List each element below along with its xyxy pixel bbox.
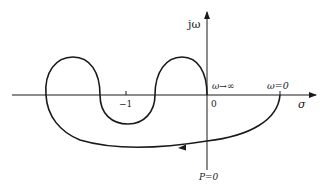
imaginary-axis-label: jω [186,18,200,31]
origin-label: 0 [211,99,217,109]
minus-one-label: −1 [119,99,132,109]
poles-count-label: P=0 [198,172,219,182]
real-axis-label: σ [298,98,306,111]
omega-zero-label: ω=0 [267,80,289,91]
omega-infinity-label: ω→∞ [212,81,234,91]
nyquist-curve [46,57,280,147]
nyquist-diagram: jω σ 0 −1 ω→∞ ω=0 P=0 [0,0,324,192]
